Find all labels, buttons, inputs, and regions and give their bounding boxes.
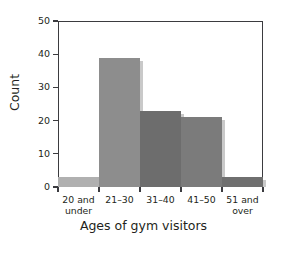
y-tick-label: 20 [38,116,50,126]
histogram-chart: Count 50403020100 Ages of gym visitors 2… [0,0,287,254]
y-tick-mark [53,120,58,121]
y-axis-title: Count [8,58,21,128]
bar [58,177,99,187]
y-tick-mark [53,153,58,154]
y-tick-label: 40 [38,49,50,59]
x-tick-mark [139,187,140,192]
x-axis: Ages of gym visitors 20 andunder21–3031–… [0,187,287,254]
bar [222,177,263,187]
y-tick-label: 50 [38,16,50,26]
y-tick-label: 30 [38,82,50,92]
y-tick-mark [53,87,58,88]
y-tick-mark [53,54,58,55]
y-tick-label: 10 [38,149,50,159]
x-tick-mark [180,187,181,192]
x-tick-label-line: under [49,206,109,217]
x-tick-label: 51 andover [213,195,273,216]
x-tick-label-line: over [213,206,273,217]
x-axis-title: Ages of gym visitors [0,219,287,233]
y-tick-mark [53,20,58,21]
x-tick-mark [221,187,222,192]
x-tick-label-line: 51 and [213,195,273,206]
x-tick-mark [262,187,263,192]
bar [140,111,181,187]
x-tick-mark [98,187,99,192]
bar [181,117,222,187]
x-tick-mark [57,187,58,192]
bars-layer [58,21,263,187]
bar [99,58,140,187]
